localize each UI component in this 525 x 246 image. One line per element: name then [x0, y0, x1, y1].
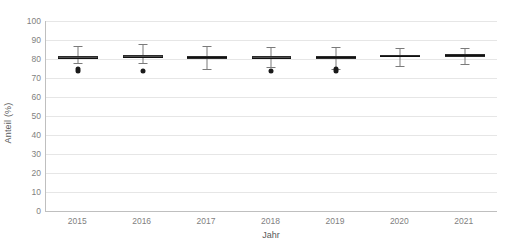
box-plot-2021 [445, 21, 485, 211]
whisker-cap-upper [138, 44, 147, 45]
whisker-cap-lower [396, 66, 405, 67]
whisker-cap-lower [74, 63, 83, 64]
whisker-upper [207, 46, 208, 56]
x-tick-label-2016: 2016 [132, 216, 151, 226]
y-tick-label-60: 60 [7, 93, 41, 102]
y-tick-label-90: 90 [7, 36, 41, 45]
y-tick-label-0: 0 [7, 207, 41, 216]
median-line [316, 57, 356, 58]
whisker-cap-upper [331, 47, 340, 48]
x-tick-label-2018: 2018 [261, 216, 280, 226]
box-plot-2017 [187, 21, 227, 211]
y-tick-label-80: 80 [7, 55, 41, 64]
box-plot-2015 [58, 21, 98, 211]
y-tick-label-10: 10 [7, 188, 41, 197]
whisker-cap-upper [267, 47, 276, 48]
x-tick-label-2015: 2015 [68, 216, 87, 226]
whisker-upper [78, 46, 79, 56]
box-plot-2019 [316, 21, 356, 211]
whisker-upper [335, 47, 336, 56]
median-line [123, 57, 163, 58]
x-tick-label-2021: 2021 [454, 216, 473, 226]
y-tick-label-70: 70 [7, 74, 41, 83]
whisker-upper [142, 44, 143, 55]
y-tick-label-100: 100 [7, 17, 41, 26]
outlier-point-1 [333, 67, 338, 72]
boxplot-chart: Anteil (%) 0102030405060708090100 201520… [0, 0, 525, 246]
y-tick-label-30: 30 [7, 150, 41, 159]
whisker-cap-upper [460, 48, 469, 49]
box-plot-2020 [380, 21, 420, 211]
outlier-point-1 [76, 67, 81, 72]
whisker-lower [207, 59, 208, 69]
median-line [187, 57, 227, 58]
median-line [445, 55, 485, 56]
whisker-cap-upper [396, 48, 405, 49]
x-axis-title: Jahr [45, 230, 497, 240]
y-tick-label-40: 40 [7, 131, 41, 140]
box-plot-2016 [123, 21, 163, 211]
outlier-point-0 [140, 69, 145, 74]
whisker-upper [400, 48, 401, 55]
y-tick-label-50: 50 [7, 112, 41, 121]
median-line [252, 58, 292, 59]
x-tick-label-2017: 2017 [197, 216, 216, 226]
median-line [380, 56, 420, 57]
median-line [58, 58, 98, 59]
whisker-cap-upper [74, 46, 83, 47]
y-tick-label-20: 20 [7, 169, 41, 178]
x-tick-label-2020: 2020 [390, 216, 409, 226]
whisker-cap-lower [460, 64, 469, 65]
y-axis-tick-labels: 0102030405060708090100 [0, 21, 41, 212]
whisker-cap-lower [138, 63, 147, 64]
whisker-upper [271, 47, 272, 57]
whisker-lower [400, 57, 401, 65]
x-tick-label-2019: 2019 [325, 216, 344, 226]
outlier-point-0 [269, 68, 274, 73]
whisker-cap-upper [203, 46, 212, 47]
whisker-lower [464, 57, 465, 64]
x-axis-tick-labels: 2015201620172018201920202021 [45, 216, 497, 230]
whisker-cap-lower [203, 69, 212, 70]
whisker-lower [271, 59, 272, 67]
box-plot-2018 [252, 21, 292, 211]
plot-area [45, 21, 497, 212]
